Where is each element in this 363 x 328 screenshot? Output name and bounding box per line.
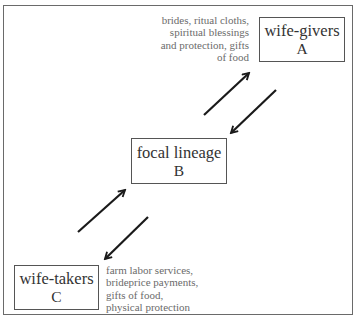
gift-line: farm labor services, [106, 264, 198, 276]
gift-line: of food [161, 51, 249, 63]
gift-line: brideprice payments, [106, 276, 198, 288]
node-wife-takers: wife-takers C [14, 265, 99, 310]
gift-line: and protection, gifts [161, 39, 249, 51]
node-letter: C [15, 288, 98, 306]
node-wife-givers: wife-givers A [259, 17, 345, 62]
gifts-from-wife-givers: brides, ritual cloths, spiritual blessin… [161, 14, 249, 63]
node-focal-lineage: focal lineage B [131, 138, 227, 184]
gift-line: spiritual blessings [161, 26, 249, 38]
node-name: wife-takers [15, 269, 98, 288]
gift-line: physical protection [106, 301, 198, 313]
node-name: wife-givers [260, 21, 344, 40]
node-name: focal lineage [132, 143, 226, 162]
gift-line: gifts of food, [106, 289, 198, 301]
node-letter: A [260, 40, 344, 58]
gift-line: brides, ritual cloths, [161, 14, 249, 26]
gifts-from-wife-takers: farm labor services, brideprice payments… [106, 264, 198, 313]
node-letter: B [132, 162, 226, 180]
